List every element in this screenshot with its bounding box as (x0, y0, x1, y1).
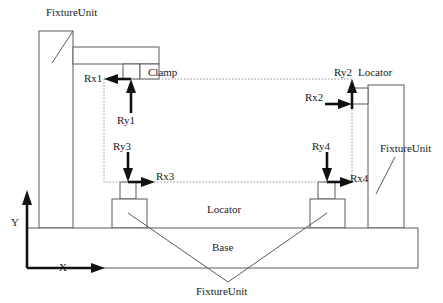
label-clamp: Clamp (148, 66, 178, 78)
left-fixture-column (39, 31, 73, 228)
label-ry4: Ry4 (312, 140, 330, 152)
force-arrow-ry1 (126, 79, 136, 113)
force-arrow-ry3 (123, 152, 133, 182)
locator4-neck (318, 182, 335, 199)
clamp-arm (73, 47, 159, 64)
figure-canvas: FixtureUnit Clamp Locator FixtureUnit Lo… (0, 0, 443, 303)
right-fixture-column (368, 85, 404, 228)
label-fixtureunit-right: FixtureUnit (380, 142, 431, 154)
label-ry1: Ry1 (117, 114, 135, 126)
label-rx1: Rx1 (84, 72, 102, 84)
label-fixtureunit-bottom: FixtureUnit (196, 285, 247, 297)
label-base: Base (212, 241, 234, 253)
label-axis-y: Y (11, 216, 19, 228)
force-arrow-rx2 (325, 99, 352, 109)
label-rx3: Rx3 (156, 170, 175, 182)
force-arrow-ry4 (322, 152, 332, 182)
locator4-body (310, 199, 345, 228)
label-ry3: Ry3 (113, 140, 131, 152)
fixture-schematic-svg: FixtureUnit Clamp Locator FixtureUnit Lo… (0, 0, 443, 303)
clamp-pad (123, 64, 140, 79)
label-rx4: Rx4 (350, 172, 369, 184)
label-axis-x: X (59, 261, 67, 273)
label-locator-middle: Locator (207, 203, 242, 215)
label-rx2: Rx2 (305, 91, 323, 103)
label-ry2: Ry2 (334, 66, 352, 78)
label-fixtureunit-top: FixtureUnit (46, 6, 97, 18)
locator3-neck (120, 182, 136, 199)
label-locator-top-right: Locator (358, 66, 393, 78)
